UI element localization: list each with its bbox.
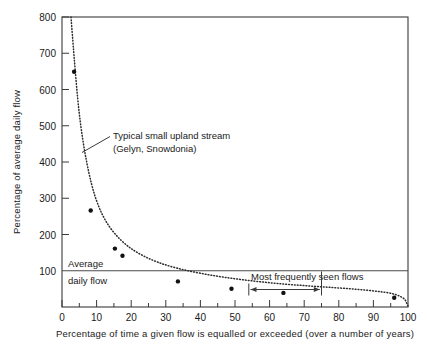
- data-point: [229, 287, 233, 291]
- y-tick-label: 100: [39, 266, 56, 277]
- data-point: [72, 70, 76, 74]
- x-tick-label: 70: [299, 312, 311, 323]
- data-point: [89, 208, 93, 212]
- y-tick-label: 800: [39, 12, 56, 23]
- data-point: [392, 296, 396, 300]
- y-tick-label: 400: [39, 157, 56, 168]
- average-daily-flow-label-line2: daily flow: [68, 275, 107, 286]
- data-point: [120, 254, 124, 258]
- x-axis-title: Percentage of time a given flow is equal…: [56, 328, 414, 339]
- x-tick-label: 100: [400, 312, 417, 323]
- x-tick-label: 60: [264, 312, 276, 323]
- y-tick-label: 300: [39, 193, 56, 204]
- y-tick-100: 100: [39, 266, 56, 277]
- y-tick-label: 500: [39, 121, 56, 132]
- curve-callout-line1: Typical small upland stream: [113, 130, 230, 141]
- x-tick-label: 10: [91, 312, 103, 323]
- x-tick-label: 80: [333, 312, 345, 323]
- y-tick-label: 200: [39, 230, 56, 241]
- plot-frame: [62, 17, 408, 307]
- data-point: [281, 291, 285, 295]
- x-tick-label: 40: [195, 312, 207, 323]
- most-frequent-range-label: Most frequently seen flows: [251, 271, 364, 282]
- x-tick-label: 20: [126, 312, 138, 323]
- y-axis-title: Percentage of average daily flow: [11, 90, 22, 234]
- x-tick-label: 0: [59, 312, 65, 323]
- x-tick-label: 50: [229, 312, 241, 323]
- data-point: [113, 246, 117, 250]
- curve-callout-line2: (Gelyn, Snowdonia): [113, 143, 196, 154]
- y-tick-label: 700: [39, 48, 56, 59]
- data-point: [176, 279, 180, 283]
- x-tick-label: 90: [368, 312, 380, 323]
- y-tick-label: 600: [39, 85, 56, 96]
- flow-duration-chart: 800 700 600 500 400 300: [0, 0, 427, 347]
- chart-svg: 800 700 600 500 400 300: [0, 0, 427, 347]
- x-tick-label: 30: [160, 312, 172, 323]
- average-daily-flow-label-line1: Average: [68, 258, 103, 269]
